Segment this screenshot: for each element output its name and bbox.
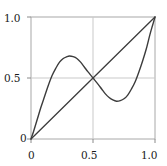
y-tick-label-mid: 0.5 bbox=[4, 73, 20, 84]
x-tick-label-right: 1.0 bbox=[141, 150, 157, 161]
y-tick-label-top: 1.0 bbox=[4, 13, 20, 24]
y-tick-label-bottom: 0 bbox=[20, 133, 27, 144]
figure-container: 1.0 0.5 0 0 0.5 1.0 bbox=[0, 0, 167, 166]
x-tick-label-left: 0 bbox=[28, 150, 35, 161]
x-tick-label-mid: 0.5 bbox=[81, 150, 97, 161]
